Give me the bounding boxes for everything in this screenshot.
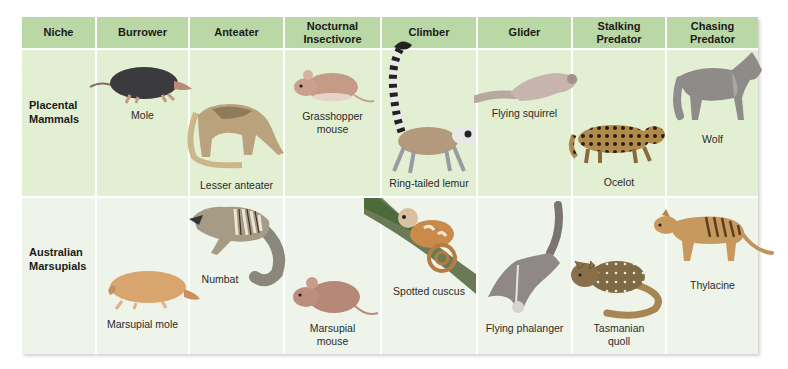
header-niche: Niche [22,17,95,48]
animal-name-line2: mouse [285,335,380,348]
ring-tailed-lemur-icon [384,37,484,177]
animal-label-lesser-anteater: Lesser anteater [190,179,283,192]
header-anteater-label: Anteater [214,26,259,39]
animal-label-ocelot: Ocelot [573,176,665,189]
animal-label-numbat: Numbat [190,273,250,286]
ocelot-icon [564,117,670,167]
animal-name: Flying phalanger [486,322,564,334]
flying-phalanger-icon [480,201,570,319]
animal-label-thylacine: Thylacine [667,279,758,292]
row-label-line2: Mammals [29,112,79,126]
header-anteater: Anteater [190,17,283,48]
animal-name: Thylacine [690,279,735,291]
animal-label-ring-tailed-lemur: Ring-tailed lemur [382,177,476,190]
animal-name: Spotted cuscus [393,285,465,297]
header-nocturnal-label-line2: Insectivore [303,33,361,46]
header-chasing-label-line2: Predator [690,33,735,46]
header-burrower: Burrower [97,17,188,48]
animal-label-tasmanian-quoll: Tasmanian quoll [573,322,665,348]
animal-label-flying-squirrel: Flying squirrel [478,107,571,120]
animal-name: Mole [131,109,154,121]
header-chasing-label-line1: Chasing [691,20,734,33]
animal-label-grasshopper-mouse: Grasshopper mouse [285,110,380,136]
thylacine-icon [650,207,774,267]
lesser-anteater-icon [182,99,286,169]
row-label-line2: Marsupials [29,259,86,273]
header-nocturnal-insectivore: Nocturnal Insectivore [285,17,380,48]
header-stalking-predator: Stalking Predator [573,17,665,48]
animal-name: Ring-tailed lemur [389,177,468,189]
animal-name-line1: Marsupial [285,322,380,335]
animal-name-line2: mouse [285,123,380,136]
grasshopper-mouse-icon [288,67,378,109]
animal-name: Marsupial mole [107,318,178,330]
placental-row-label: Placental Mammals [29,98,79,126]
animal-name-line1: Grasshopper [285,110,380,123]
animal-name: Flying squirrel [492,107,557,119]
placental-row-label-cell: Placental Mammals [22,50,95,196]
animal-label-spotted-cuscus: Spotted cuscus [382,285,476,298]
animal-name: Wolf [702,133,723,145]
animal-name: Numbat [202,273,239,285]
animal-name: Ocelot [604,176,634,188]
animal-name-line2: quoll [573,335,665,348]
flying-squirrel-icon [474,69,582,109]
animal-label-wolf: Wolf [667,133,758,146]
animal-label-mole: Mole [97,109,188,122]
row-label-line1: Placental [29,98,79,112]
marsupial-row-label-cell: Australian Marsupials [22,198,95,354]
animal-label-flying-phalanger: Flying phalanger [478,322,571,335]
animal-label-marsupial-mole: Marsupial mole [97,318,188,331]
header-chasing-predator: Chasing Predator [667,17,758,48]
header-stalking-label-line2: Predator [596,33,641,46]
wolf-icon [672,50,764,128]
animal-name: Lesser anteater [200,179,273,191]
animal-name-line1: Tasmanian [573,322,665,335]
header-stalking-label-line1: Stalking [598,20,641,33]
row-label-line1: Australian [29,245,86,259]
header-niche-label: Niche [44,26,74,39]
marsupial-row-label: Australian Marsupials [29,245,86,273]
spotted-cuscus-icon [364,198,478,294]
header-glider: Glider [478,17,571,48]
convergent-evolution-table: Niche Burrower Anteater Nocturnal Insect… [22,17,758,354]
header-burrower-label: Burrower [118,26,167,39]
header-nocturnal-label-line1: Nocturnal [307,20,358,33]
header-glider-label: Glider [509,26,541,39]
animal-label-marsupial-mouse: Marsupial mouse [285,322,380,348]
